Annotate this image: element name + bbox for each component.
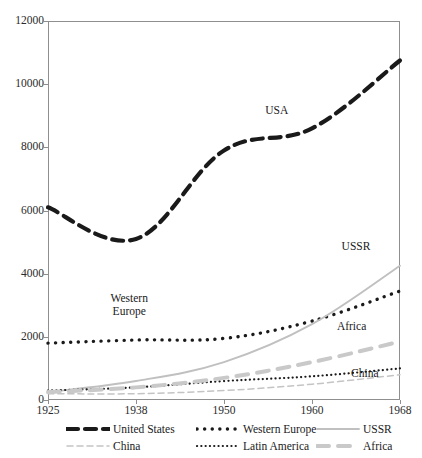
legend-key-swatch: [316, 423, 360, 435]
legend-label: Latin America: [243, 440, 309, 452]
x-tick-mark: [48, 400, 49, 404]
legend-label: USSR: [363, 423, 392, 435]
y-tick-label: 12000: [0, 15, 44, 27]
legend-label: China: [113, 440, 140, 452]
y-tick-label: 2000: [0, 331, 44, 343]
y-tick-mark: [42, 84, 48, 85]
y-tick-mark: [42, 274, 48, 275]
series-annotation: USSR: [342, 240, 371, 253]
series-annotation: Western Europe: [111, 292, 148, 318]
legend-item[interactable]: Latin America: [196, 440, 309, 452]
legend-key-swatch: [66, 423, 110, 435]
legend-key-swatch: [196, 423, 240, 435]
x-tick-label: 1938: [125, 404, 148, 416]
y-tick-mark: [42, 147, 48, 148]
legend-key-swatch: [316, 440, 360, 452]
legend-label: Africa: [363, 440, 392, 452]
x-tick-label: 1925: [37, 404, 60, 416]
x-tick-mark: [312, 400, 313, 404]
legend-key-swatch: [66, 440, 110, 452]
legend-label: United States: [113, 423, 175, 435]
legend-item[interactable]: Western Europe: [196, 423, 316, 435]
x-tick-mark: [224, 400, 225, 404]
plot-area: [48, 21, 400, 400]
legend-key-swatch: [196, 440, 240, 452]
y-tick-label: 4000: [0, 268, 44, 280]
y-tick-label: 6000: [0, 205, 44, 217]
y-tick-mark: [42, 21, 48, 22]
y-tick-label: 10000: [0, 78, 44, 90]
x-tick-label: 1968: [389, 404, 412, 416]
legend-item[interactable]: Africa: [316, 440, 392, 452]
y-tick-mark: [42, 211, 48, 212]
x-tick-label: 1950: [213, 404, 236, 416]
x-tick-label: 1960: [301, 404, 324, 416]
series-annotation: China: [351, 367, 378, 380]
legend-label: Western Europe: [243, 423, 316, 435]
figure-canvas: 020004000600080001000012000 192519381950…: [0, 0, 422, 458]
legend: United StatesWestern EuropeUSSRChinaLati…: [48, 422, 400, 456]
series-annotation: USA: [265, 104, 288, 117]
series-annotation: Africa: [337, 320, 366, 333]
legend-item[interactable]: China: [66, 440, 140, 452]
x-tick-mark: [400, 400, 401, 404]
legend-item[interactable]: United States: [66, 423, 175, 435]
y-tick-label: 8000: [0, 141, 44, 153]
x-tick-mark: [136, 400, 137, 404]
legend-item[interactable]: USSR: [316, 423, 392, 435]
y-tick-mark: [42, 337, 48, 338]
cropped-title-remnant: [54, 0, 384, 3]
